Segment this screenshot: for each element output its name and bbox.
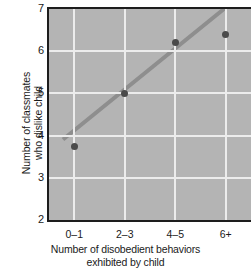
gridline-vertical xyxy=(73,9,75,220)
y-axis-tick-label: 5 xyxy=(28,87,44,98)
gridline-vertical xyxy=(124,9,126,220)
gridline-horizontal xyxy=(49,135,251,137)
y-axis-tick-label: 4 xyxy=(28,130,44,141)
y-axis-tick-label: 7 xyxy=(28,3,44,14)
y-axis-tick-labels: 234567 xyxy=(26,0,44,273)
data-point xyxy=(71,143,78,150)
y-axis-tick-label: 3 xyxy=(28,172,44,183)
x-axis-tick-label: 4–5 xyxy=(155,228,195,240)
gridline-horizontal xyxy=(49,92,251,94)
x-axis-tick-labels: 0–12–34–56+ xyxy=(47,228,251,242)
x-axis-title-line1: Number of disobedient behaviors xyxy=(51,243,200,255)
x-axis-tick-label: 0–1 xyxy=(54,228,94,240)
y-axis-tick-label: 6 xyxy=(28,45,44,56)
plot-area xyxy=(47,7,251,222)
gridline-vertical xyxy=(225,9,227,220)
gridline-horizontal xyxy=(49,50,251,52)
data-point xyxy=(172,39,179,46)
gridline-horizontal xyxy=(49,177,251,179)
x-axis-tick-label: 2–3 xyxy=(105,228,145,240)
x-axis-tick-label: 6+ xyxy=(206,228,246,240)
x-axis-title-line2: exhibited by child xyxy=(0,256,251,269)
x-axis-title: Number of disobedient behaviors exhibite… xyxy=(0,243,251,269)
y-axis-tick-label: 2 xyxy=(28,214,44,225)
plot-inner xyxy=(49,9,251,220)
trend-line xyxy=(49,9,251,220)
chart-figure: Number of classmates who dislike child 2… xyxy=(0,0,251,273)
